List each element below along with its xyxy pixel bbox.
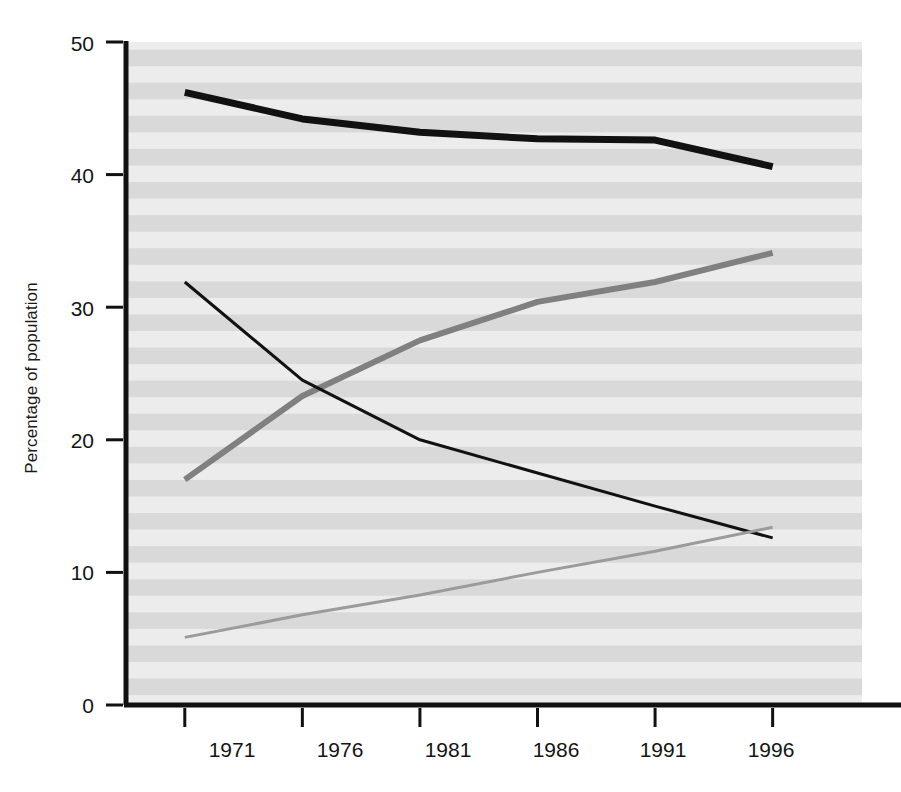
plot-background	[126, 42, 862, 705]
line-chart: Percentage of population 50 40 30 20 10 …	[0, 0, 901, 792]
plot-area	[0, 0, 901, 792]
